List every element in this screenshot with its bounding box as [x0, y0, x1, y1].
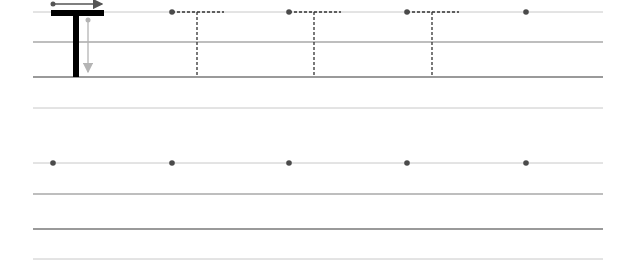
start-dot-icon: [169, 9, 175, 15]
stroke-direction-arrow-icon: [51, 2, 103, 7]
start-dot-icon: [169, 160, 175, 166]
start-dot-icon: [523, 9, 529, 15]
stem-direction-arrow-icon: [86, 18, 91, 73]
start-dot-icon: [404, 160, 410, 166]
start-dot-icon: [286, 160, 292, 166]
model-letter-t: [51, 10, 104, 77]
start-dot-icon: [523, 160, 529, 166]
ruled-lines: [33, 12, 603, 259]
start-dot-icon: [404, 9, 410, 15]
start-dot-icon: [286, 9, 292, 15]
tracing-guides: [172, 12, 459, 77]
handwriting-worksheet: [0, 0, 637, 272]
start-dot-icon: [50, 160, 56, 166]
start-dots: [50, 9, 529, 166]
